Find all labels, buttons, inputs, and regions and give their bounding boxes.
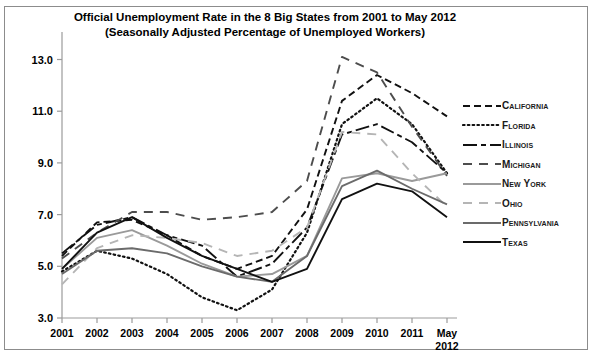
legend-line-swatch bbox=[462, 178, 502, 190]
legend-label: Pennsylvania bbox=[502, 217, 559, 228]
legend-line-swatch bbox=[462, 217, 502, 229]
y-tick-label: 13.0 bbox=[32, 54, 53, 66]
x-tick-label: 2008 bbox=[295, 327, 319, 339]
legend-item-texas[interactable]: Texas bbox=[462, 233, 588, 253]
x-tick-label: 2012 bbox=[435, 340, 459, 352]
y-tick-label: 3.0 bbox=[38, 312, 53, 324]
legend-item-florida[interactable]: Florida bbox=[462, 116, 588, 136]
x-tick-label: May bbox=[437, 327, 458, 339]
legend-item-new-york[interactable]: New York bbox=[462, 174, 588, 194]
x-tick-label: 2011 bbox=[401, 327, 424, 339]
x-tick-label: 2010 bbox=[365, 327, 389, 339]
legend-line-swatch bbox=[462, 158, 502, 170]
x-tick-label: 2001 bbox=[50, 327, 74, 339]
legend-line-swatch bbox=[462, 236, 502, 248]
series-line-california bbox=[62, 75, 447, 269]
x-tick-label: 2006 bbox=[225, 327, 249, 339]
legend-label: Texas bbox=[502, 237, 528, 248]
legend-line-swatch bbox=[462, 100, 502, 112]
legend-label: Ohio bbox=[502, 198, 523, 209]
x-tick-label: 2003 bbox=[120, 327, 144, 339]
y-tick-label: 5.0 bbox=[38, 260, 53, 272]
legend-line-swatch bbox=[462, 197, 502, 209]
legend-label: Illinois bbox=[502, 139, 533, 150]
x-tick-label: 2009 bbox=[330, 327, 354, 339]
chart-legend: CaliforniaFloridaIllinoisMichiganNew Yor… bbox=[462, 96, 588, 252]
chart-screenshot: Official Unemployment Rate in the 8 Big … bbox=[0, 0, 592, 356]
legend-item-illinois[interactable]: Illinois bbox=[462, 135, 588, 155]
legend-item-california[interactable]: California bbox=[462, 96, 588, 116]
x-tick-label: 2007 bbox=[260, 327, 284, 339]
legend-item-ohio[interactable]: Ohio bbox=[462, 194, 588, 214]
legend-label: New York bbox=[502, 178, 546, 189]
y-tick-label: 11.0 bbox=[32, 105, 53, 117]
legend-label: Michigan bbox=[502, 159, 541, 170]
x-tick-label: 2002 bbox=[85, 327, 109, 339]
legend-item-michigan[interactable]: Michigan bbox=[462, 155, 588, 175]
x-tick-label: 2005 bbox=[190, 327, 214, 339]
series-line-ohio bbox=[62, 132, 447, 285]
legend-line-swatch bbox=[462, 119, 502, 131]
legend-item-pennsylvania[interactable]: Pennsylvania bbox=[462, 213, 588, 233]
series-line-new-york bbox=[62, 173, 447, 276]
legend-line-swatch bbox=[462, 139, 502, 151]
legend-label: California bbox=[502, 100, 548, 111]
y-tick-label: 9.0 bbox=[38, 157, 53, 169]
series-line-pennsylvania bbox=[62, 171, 447, 282]
series-line-michigan bbox=[62, 57, 447, 259]
y-tick-label: 7.0 bbox=[38, 209, 53, 221]
x-tick-label: 2004 bbox=[155, 327, 179, 339]
legend-label: Florida bbox=[502, 120, 536, 131]
